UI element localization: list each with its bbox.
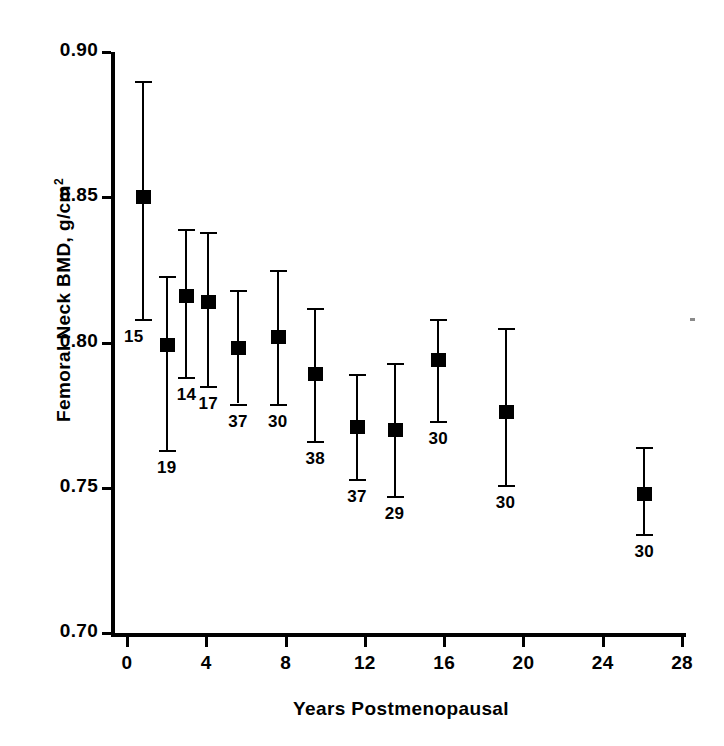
sample-size-label: 19: [137, 458, 197, 478]
error-bar-cap-lower: [636, 534, 653, 536]
x-axis-title: Years Postmenopausal: [111, 698, 691, 720]
y-axis-tick-label: 0.85: [0, 184, 98, 206]
data-point-marker: [201, 295, 216, 309]
x-axis-tick: [602, 637, 605, 647]
error-bar-cap-lower: [178, 377, 195, 379]
data-point-marker: [136, 190, 151, 204]
sample-size-label: 30: [408, 429, 468, 449]
sample-size-label: 15: [104, 327, 164, 347]
x-axis-tick: [364, 637, 367, 647]
x-axis-tick-label: 28: [652, 652, 712, 674]
error-bar-cap-upper: [349, 374, 366, 376]
sample-size-label: 38: [285, 449, 345, 469]
x-axis-tick: [681, 637, 684, 647]
x-axis-line: [111, 633, 686, 637]
data-point-marker: [637, 487, 652, 501]
error-bar-cap-upper: [270, 270, 287, 272]
error-bar-line: [185, 229, 187, 377]
error-bar-cap-lower: [430, 421, 447, 423]
error-bar-cap-upper: [159, 276, 176, 278]
sample-size-label: 29: [365, 504, 425, 524]
error-bar-cap-upper: [135, 81, 152, 83]
data-point-marker: [431, 353, 446, 367]
y-axis-tick-label: 0.70: [0, 620, 98, 642]
x-axis-tick: [443, 637, 446, 647]
x-axis-tick-label: 0: [97, 652, 157, 674]
error-bar-cap-upper: [498, 328, 515, 330]
error-bar-cap-upper: [200, 232, 217, 234]
error-bar-cap-lower: [270, 404, 287, 406]
chart-figure: Femoral Neck BMD, g/cm2 0481216202428 15…: [0, 0, 724, 746]
error-bar-cap-upper: [307, 308, 324, 310]
x-axis-tick-label: 12: [335, 652, 395, 674]
data-point-marker: [231, 341, 246, 355]
error-bar-line: [166, 276, 168, 450]
sample-size-label: 30: [248, 412, 308, 432]
error-bar-cap-upper: [387, 363, 404, 365]
y-axis-tick: [102, 196, 111, 199]
error-bar-cap-upper: [430, 319, 447, 321]
x-axis-tick: [285, 637, 288, 647]
data-point-marker: [388, 423, 403, 437]
error-bar-cap-lower: [135, 319, 152, 321]
error-bar-line: [437, 319, 439, 421]
x-axis-tick: [205, 637, 208, 647]
plot-area: 0481216202428 151914173730383729303030: [111, 52, 686, 637]
data-point-marker: [308, 367, 323, 381]
error-bar-line: [207, 232, 209, 386]
error-bar-cap-upper: [178, 229, 195, 231]
error-bar-cap-lower: [498, 485, 515, 487]
error-bar-cap-lower: [200, 386, 217, 388]
x-axis-tick-label: 20: [493, 652, 553, 674]
data-point-marker: [350, 420, 365, 434]
data-point-marker: [499, 405, 514, 419]
error-bar-cap-upper: [636, 447, 653, 449]
x-axis-tick-label: 16: [414, 652, 474, 674]
y-axis-tick: [102, 632, 111, 635]
data-point-marker: [160, 338, 175, 352]
y-axis-title: Femoral Neck BMD, g/cm2: [52, 0, 75, 600]
sample-size-label: 30: [476, 493, 536, 513]
y-axis-title-text: Femoral Neck BMD, g/cm: [53, 185, 74, 422]
x-axis-tick-label: 4: [176, 652, 236, 674]
data-point-marker: [271, 330, 286, 344]
scan-artifact-speck: [690, 318, 695, 321]
y-axis-tick: [102, 51, 111, 54]
sample-size-label: 30: [614, 542, 674, 562]
x-axis-tick: [126, 637, 129, 647]
error-bar-cap-lower: [159, 450, 176, 452]
error-bar-cap-lower: [307, 441, 324, 443]
error-bar-cap-upper: [230, 290, 247, 292]
x-axis-tick-label: 8: [256, 652, 316, 674]
y-axis-tick-label: 0.90: [0, 39, 98, 61]
error-bar-cap-lower: [387, 496, 404, 498]
x-axis-tick: [522, 637, 525, 647]
y-axis-tick-label: 0.80: [0, 330, 98, 352]
error-bar-cap-lower: [230, 404, 247, 406]
x-axis-tick-label: 24: [573, 652, 633, 674]
data-point-marker: [179, 289, 194, 303]
y-axis-tick: [102, 487, 111, 490]
error-bar-cap-lower: [349, 479, 366, 481]
y-axis-tick-label: 0.75: [0, 475, 98, 497]
